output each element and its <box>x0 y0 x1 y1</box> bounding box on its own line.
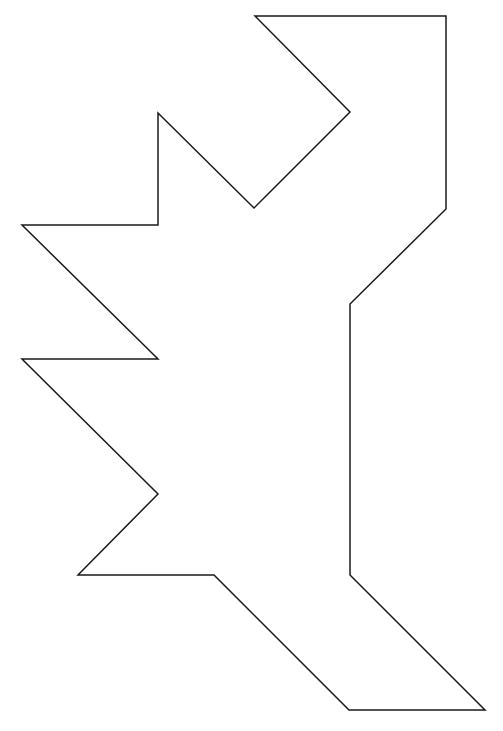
tangram-outline <box>22 16 485 710</box>
tangram-diagram <box>0 0 503 731</box>
